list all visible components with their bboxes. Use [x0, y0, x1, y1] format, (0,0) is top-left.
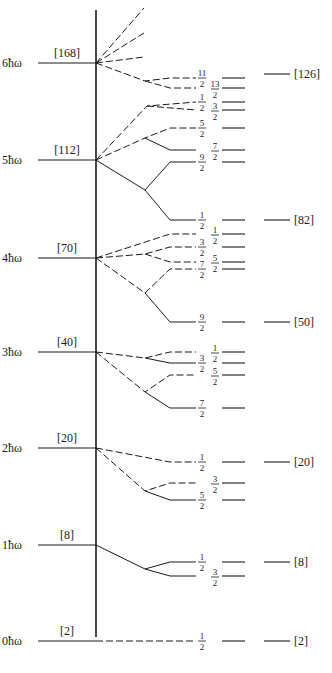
- j-denominator: 2: [213, 236, 218, 246]
- j-denominator: 2: [200, 409, 205, 419]
- magic-label: [20]: [294, 455, 314, 469]
- magic-number-right: [2]: [264, 634, 308, 648]
- magic-number-right: [8]: [264, 555, 308, 569]
- j-denominator: 2: [200, 364, 205, 374]
- j-numerator: 7: [200, 259, 205, 269]
- splitting-line: [96, 545, 196, 569]
- magic-number-right: [20]: [264, 455, 314, 469]
- j-numerator: 1: [200, 631, 205, 641]
- j-numerator: 3: [213, 474, 218, 484]
- j-denominator: 2: [200, 248, 205, 258]
- j-denominator: 2: [213, 377, 218, 387]
- j-numerator: 5: [213, 253, 218, 263]
- split-level: 32: [211, 567, 245, 588]
- oscillator-level: 0ħω[2]: [2, 624, 96, 648]
- magic-numbers-right: [126][82][50][20][8][2]: [264, 67, 320, 648]
- j-numerator: 1: [200, 452, 205, 462]
- j-numerator: 5: [200, 118, 205, 128]
- j-numerator: 11: [198, 68, 207, 78]
- j-numerator: 7: [213, 141, 218, 151]
- magic-number-left: [168]: [54, 46, 80, 60]
- split-level: 32: [211, 101, 245, 122]
- split-level: 12: [198, 552, 245, 573]
- magic-number-left: [70]: [57, 241, 77, 255]
- j-denominator: 2: [200, 463, 205, 473]
- split-level: 32: [198, 237, 245, 258]
- splitting-line: [145, 491, 196, 500]
- magic-number-right: [126]: [264, 67, 320, 81]
- splitting-line: [96, 258, 196, 293]
- magic-label: [8]: [294, 555, 308, 569]
- splitting-line: [145, 138, 196, 150]
- j-denominator: 2: [213, 90, 218, 100]
- split-level: 32: [211, 474, 245, 495]
- splitting-line: [96, 63, 196, 81]
- split-levels: 1121321232527292121232527292123252721232…: [198, 68, 245, 652]
- j-denominator: 2: [213, 578, 218, 588]
- magic-number-left: [2]: [60, 624, 74, 638]
- split-level: 12: [211, 225, 245, 246]
- splitting-line: [96, 8, 144, 63]
- splitting-line: [96, 448, 196, 462]
- splitting-line: [96, 160, 196, 190]
- j-numerator: 1: [213, 225, 218, 235]
- split-level: 72: [211, 141, 245, 162]
- j-numerator: 1: [200, 92, 205, 102]
- splitting-line: [145, 81, 196, 88]
- j-numerator: 9: [200, 152, 205, 162]
- splitting-line: [145, 392, 196, 408]
- splitting-line: [145, 190, 196, 220]
- splitting-line: [145, 254, 196, 262]
- shell-model-diagram: 6ħω[168]5ħω[112]4ħω[70]3ħω[40]2ħω[20]1ħω…: [0, 0, 332, 673]
- split-level: 12: [198, 210, 245, 231]
- j-denominator: 2: [213, 152, 218, 162]
- j-numerator: 1: [200, 552, 205, 562]
- j-numerator: 13: [211, 79, 221, 89]
- split-level: 72: [198, 398, 245, 419]
- split-level: 112: [198, 68, 245, 89]
- j-numerator: 5: [213, 366, 218, 376]
- j-denominator: 2: [213, 485, 218, 495]
- magic-label: [50]: [294, 315, 314, 329]
- magic-number-right: [82]: [264, 213, 314, 227]
- j-numerator: 9: [200, 312, 205, 322]
- splitting-line: [96, 448, 196, 491]
- splitting-line: [96, 33, 144, 63]
- j-denominator: 2: [200, 79, 205, 89]
- j-denominator: 2: [200, 563, 205, 573]
- split-level: 52: [211, 366, 245, 387]
- magic-number-right: [50]: [264, 315, 314, 329]
- split-level: 52: [211, 253, 245, 274]
- split-level: 52: [198, 490, 245, 511]
- magic-label: [126]: [294, 67, 320, 81]
- oscillator-level: 6ħω[168]: [2, 46, 96, 70]
- j-numerator: 1: [200, 210, 205, 220]
- oscillator-label: 2ħω: [2, 441, 22, 455]
- split-level: 12: [198, 631, 245, 652]
- j-numerator: 3: [213, 101, 218, 111]
- split-level: 132: [211, 79, 246, 100]
- j-numerator: 1: [213, 343, 218, 353]
- splitting-line: [145, 569, 196, 576]
- split-level: 12: [198, 452, 245, 473]
- oscillator-level: 4ħω[70]: [2, 241, 96, 265]
- oscillator-label: 5ħω: [2, 153, 22, 167]
- oscillator-label: 1ħω: [2, 538, 22, 552]
- j-denominator: 2: [200, 221, 205, 231]
- split-level: 92: [198, 312, 245, 333]
- j-denominator: 2: [213, 112, 218, 122]
- split-level: 32: [198, 353, 245, 374]
- split-level: 92: [198, 152, 245, 173]
- magic-number-left: [8]: [60, 528, 74, 542]
- splitting-line: [96, 247, 196, 258]
- oscillator-label: 0ħω: [2, 634, 22, 648]
- j-denominator: 2: [200, 163, 205, 173]
- oscillator-levels: 6ħω[168]5ħω[112]4ħω[70]3ħω[40]2ħω[20]1ħω…: [2, 46, 96, 648]
- j-denominator: 2: [213, 264, 218, 274]
- splitting-line: [96, 102, 196, 160]
- magic-number-left: [20]: [57, 431, 77, 445]
- splitting-connectors: [96, 8, 196, 641]
- j-numerator: 3: [200, 353, 205, 363]
- j-numerator: 7: [200, 398, 205, 408]
- magic-label: [82]: [294, 213, 314, 227]
